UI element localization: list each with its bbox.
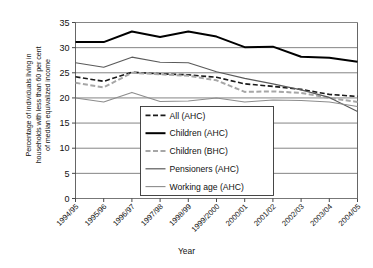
x-tick-label: 1996/97 bbox=[111, 202, 137, 228]
x-tick-label: 1997/98 bbox=[139, 202, 165, 228]
y-axis-label-wrap: Percentage of individuals living in hous… bbox=[14, 0, 62, 210]
series-line-3 bbox=[76, 57, 358, 111]
legend-label-0: All (AHC) bbox=[170, 111, 206, 121]
data-series-group bbox=[76, 32, 358, 112]
series-line-1 bbox=[76, 32, 358, 62]
x-tick-label: 1998/99 bbox=[167, 202, 193, 228]
x-tick-label: 2000/01 bbox=[224, 202, 250, 228]
x-tick-label: 2002/03 bbox=[280, 202, 306, 228]
y-axis-label-line-3: of median equivalized income bbox=[43, 47, 53, 164]
legend-label-2: Children (BHC) bbox=[170, 146, 228, 156]
series-line-4 bbox=[76, 92, 358, 106]
legend-label-3: Pensioners (AHC) bbox=[170, 164, 239, 174]
x-tick-label: 1999/2000 bbox=[190, 202, 222, 234]
y-axis-label: Percentage of individuals living in hous… bbox=[24, 47, 53, 164]
x-tick-label: 2001/02 bbox=[252, 202, 278, 228]
y-axis-label-line-1: Percentage of individuals living in bbox=[24, 47, 34, 164]
x-tick-label: 1995/96 bbox=[83, 202, 109, 228]
chart-legend: All (AHC)Children (AHC)Children (BHC)Pen… bbox=[141, 107, 274, 196]
y-tick-label: 0 bbox=[64, 194, 69, 204]
legend-label-1: Children (AHC) bbox=[170, 128, 228, 138]
y-axis-label-line-2: households with less than 60 per cent bbox=[33, 47, 43, 164]
legend-label-4: Working age (AHC) bbox=[170, 182, 244, 192]
x-axis-ticks: 1994/951995/961996/971997/981998/991999/… bbox=[55, 199, 363, 234]
x-tick-label: 2003/04 bbox=[308, 202, 334, 228]
x-tick-label: 2004/05 bbox=[337, 202, 363, 228]
chart-figure: Percentage of individuals living in hous… bbox=[0, 0, 373, 268]
y-tick-label: 5 bbox=[64, 169, 69, 179]
series-line-0 bbox=[76, 72, 358, 96]
x-axis-label: Year bbox=[0, 246, 373, 256]
